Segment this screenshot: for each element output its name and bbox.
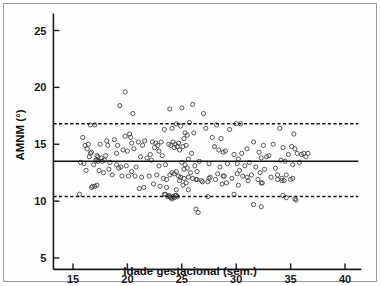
data-point bbox=[151, 182, 155, 186]
data-point bbox=[252, 140, 256, 144]
data-point bbox=[159, 140, 163, 144]
data-point bbox=[186, 175, 190, 179]
data-point bbox=[162, 127, 166, 131]
data-point bbox=[249, 173, 253, 177]
data-point bbox=[199, 179, 203, 183]
data-point bbox=[245, 147, 249, 151]
data-point bbox=[139, 175, 143, 179]
x-axis-tick-label: 15 bbox=[67, 273, 79, 285]
data-point bbox=[194, 207, 198, 211]
data-point bbox=[216, 172, 220, 176]
data-point bbox=[125, 149, 129, 153]
data-point bbox=[306, 151, 310, 155]
data-point bbox=[81, 135, 85, 139]
data-point bbox=[273, 166, 277, 170]
data-point bbox=[241, 174, 245, 178]
data-point bbox=[262, 167, 266, 171]
y-axis-tick-label: 5 bbox=[40, 252, 46, 264]
data-point bbox=[147, 174, 151, 178]
data-point bbox=[84, 168, 88, 172]
y-axis-tick-label: 10 bbox=[34, 195, 46, 207]
data-point bbox=[189, 151, 193, 155]
x-axis-tick-label: 35 bbox=[284, 273, 296, 285]
data-point bbox=[258, 171, 262, 175]
data-point bbox=[134, 165, 138, 169]
data-point bbox=[259, 205, 263, 209]
axes-layer bbox=[53, 13, 361, 269]
figure-container: 510152025152025303540 Idade gestacional … bbox=[0, 0, 381, 286]
data-point bbox=[98, 142, 102, 146]
data-point bbox=[224, 181, 228, 185]
data-point bbox=[284, 173, 288, 177]
data-point bbox=[236, 157, 240, 161]
data-point bbox=[186, 157, 190, 161]
data-point bbox=[101, 171, 105, 175]
data-point bbox=[252, 202, 256, 206]
data-point bbox=[278, 126, 282, 130]
data-point bbox=[228, 127, 232, 131]
data-point bbox=[292, 132, 296, 136]
data-point bbox=[132, 147, 136, 151]
data-point bbox=[130, 169, 134, 173]
data-point bbox=[243, 164, 247, 168]
x-axis-tick-label: 40 bbox=[339, 273, 351, 285]
data-point bbox=[114, 151, 118, 155]
data-point bbox=[110, 173, 114, 177]
data-point bbox=[145, 156, 149, 160]
data-point bbox=[164, 185, 168, 189]
y-axis-tick-label: 25 bbox=[34, 25, 46, 37]
data-point bbox=[261, 143, 265, 147]
data-point bbox=[136, 140, 140, 144]
data-point bbox=[118, 103, 122, 107]
data-point bbox=[275, 177, 279, 181]
data-point bbox=[182, 136, 186, 140]
data-point bbox=[217, 148, 221, 152]
data-point bbox=[97, 168, 101, 172]
data-point bbox=[120, 174, 124, 178]
data-point bbox=[293, 147, 297, 151]
data-point bbox=[114, 163, 118, 167]
data-point bbox=[254, 165, 258, 169]
data-point bbox=[293, 197, 297, 201]
data-point bbox=[184, 181, 188, 185]
data-point bbox=[131, 111, 135, 115]
data-point bbox=[281, 146, 285, 150]
data-point bbox=[137, 187, 141, 191]
data-point bbox=[275, 173, 279, 177]
data-point bbox=[219, 136, 223, 140]
data-point bbox=[112, 138, 116, 142]
data-point bbox=[141, 143, 145, 147]
scatter-plot-svg: 510152025152025303540 Idade gestacional … bbox=[0, 0, 381, 286]
data-point bbox=[188, 171, 192, 175]
data-point bbox=[133, 174, 137, 178]
data-point bbox=[286, 152, 290, 156]
y-axis-tick-label: 15 bbox=[34, 138, 46, 150]
data-point bbox=[271, 142, 275, 146]
data-point bbox=[168, 107, 172, 111]
data-point bbox=[163, 163, 167, 167]
data-point bbox=[201, 111, 205, 115]
data-point bbox=[212, 144, 216, 148]
data-point bbox=[160, 154, 164, 158]
data-point bbox=[257, 150, 261, 154]
data-point bbox=[178, 148, 182, 152]
data-point bbox=[174, 188, 178, 192]
data-point bbox=[195, 169, 199, 173]
data-point bbox=[158, 184, 162, 188]
data-point bbox=[148, 152, 152, 156]
data-point bbox=[269, 175, 273, 179]
data-point bbox=[213, 177, 217, 181]
data-point bbox=[123, 134, 127, 138]
data-point bbox=[121, 148, 125, 152]
data-point bbox=[142, 185, 146, 189]
data-point bbox=[192, 131, 196, 135]
scatter-plot: 510152025152025303540 Idade gestacional … bbox=[0, 0, 381, 286]
data-point bbox=[85, 147, 89, 151]
data-point bbox=[207, 161, 211, 165]
data-point bbox=[116, 143, 120, 147]
data-point bbox=[220, 182, 224, 186]
data-point bbox=[179, 124, 183, 128]
data-point bbox=[295, 151, 299, 155]
data-point bbox=[230, 176, 234, 180]
data-point bbox=[294, 198, 298, 202]
